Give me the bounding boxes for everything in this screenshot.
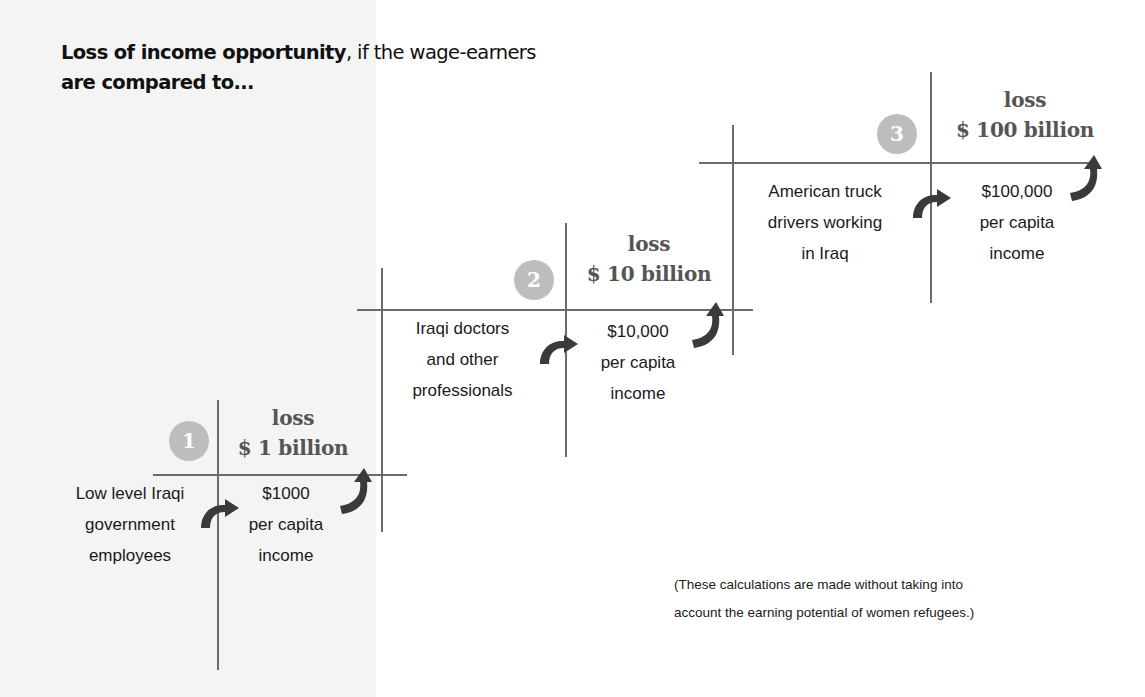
income-line: per capita [578, 347, 698, 378]
footnote-line: (These calculations are made without tak… [674, 571, 1094, 599]
group-line: drivers working [745, 207, 905, 238]
loss-label: loss [228, 403, 358, 433]
income-line: $1000 [226, 478, 346, 509]
step2-group: Iraqi doctors and other professionals [390, 313, 535, 406]
group-line: American truck [745, 176, 905, 207]
income-line: $10,000 [578, 316, 698, 347]
income-line: per capita [226, 509, 346, 540]
step-number-circle-icon: 3 [877, 114, 917, 154]
group-line: Iraqi doctors [390, 313, 535, 344]
step-number-circle-icon: 2 [514, 260, 554, 300]
step1-loss: loss $ 1 billion [228, 403, 358, 463]
income-line: income [226, 540, 346, 571]
group-line: government [55, 509, 205, 540]
loss-amount: $ 10 billion [574, 259, 724, 289]
income-line: income [957, 238, 1077, 269]
step2-loss: loss $ 10 billion [574, 229, 724, 289]
group-line: Low level Iraqi [55, 478, 205, 509]
income-line: income [578, 378, 698, 409]
footnote: (These calculations are made without tak… [674, 571, 1094, 627]
step3-loss: loss $ 100 billion [945, 85, 1105, 145]
loss-label: loss [574, 229, 724, 259]
step1-group: Low level Iraqi government employees [55, 478, 205, 571]
step3-group: American truck drivers working in Iraq [745, 176, 905, 269]
loss-label: loss [945, 85, 1105, 115]
loss-amount: $ 1 billion [228, 433, 358, 463]
group-line: professionals [390, 375, 535, 406]
step-number-circle-icon: 1 [169, 421, 209, 461]
group-line: employees [55, 540, 205, 571]
step2-income: $10,000 per capita income [578, 316, 698, 409]
income-line: $100,000 [957, 176, 1077, 207]
curved-arrow-right-icon [540, 335, 578, 364]
group-line: in Iraq [745, 238, 905, 269]
group-line: and other [390, 344, 535, 375]
step1-income: $1000 per capita income [226, 478, 346, 571]
footnote-line: account the earning potential of women r… [674, 599, 1094, 627]
step3-income: $100,000 per capita income [957, 176, 1077, 269]
income-line: per capita [957, 207, 1077, 238]
loss-amount: $ 100 billion [945, 115, 1105, 145]
